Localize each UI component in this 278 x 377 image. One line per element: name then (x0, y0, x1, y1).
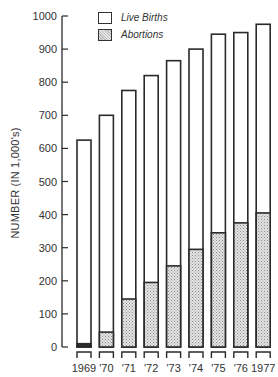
x-bracket (77, 352, 91, 358)
live-births-swatch-icon (98, 12, 112, 24)
y-tick-label: 300 (39, 242, 57, 254)
bar-live-births (99, 115, 113, 347)
x-axis: 1969'70'71'72'73'74'75'761977 (72, 352, 276, 374)
y-tick-label: 0 (51, 341, 57, 353)
bars (77, 24, 270, 347)
bar-chart: 01002003004005006007008009001000 1969'70… (0, 0, 278, 377)
x-bracket (167, 352, 181, 358)
x-tick-label: '76 (234, 362, 248, 374)
x-tick-label: '73 (166, 362, 180, 374)
x-tick-label: '70 (99, 362, 113, 374)
y-tick-label: 900 (39, 43, 57, 55)
legend: Live Births Abortions (98, 9, 168, 43)
bar-abortions (256, 213, 270, 347)
legend-label-live-births: Live Births (121, 12, 168, 23)
x-bracket (256, 352, 270, 358)
bar-abortions (189, 249, 203, 347)
y-tick-label: 400 (39, 209, 57, 221)
bar-abortions (167, 266, 181, 347)
x-tick-label: 1969 (72, 362, 96, 374)
bar-abortions (122, 299, 136, 347)
y-tick-label: 700 (39, 109, 57, 121)
abortions-swatch-icon (98, 29, 112, 41)
x-tick-label: '75 (211, 362, 225, 374)
bar-abortions (211, 233, 225, 347)
y-axis: 01002003004005006007008009001000 (33, 10, 68, 353)
y-tick-label: 200 (39, 275, 57, 287)
x-tick-label: '71 (122, 362, 136, 374)
bar-abortions (77, 344, 91, 347)
y-tick-label: 1000 (33, 10, 57, 22)
x-tick-label: 1977 (251, 362, 275, 374)
x-bracket (234, 352, 248, 358)
x-tick-label: '72 (144, 362, 158, 374)
x-bracket (189, 352, 203, 358)
x-bracket (99, 352, 113, 358)
bar-live-births (77, 140, 91, 347)
bar-abortions (144, 282, 158, 347)
x-tick-label: '74 (189, 362, 203, 374)
x-bracket (211, 352, 225, 358)
y-tick-label: 100 (39, 308, 57, 320)
x-bracket (144, 352, 158, 358)
y-tick-label: 600 (39, 142, 57, 154)
y-axis-label: NUMBER (IN 1,000's) (9, 103, 23, 263)
legend-label-abortions: Abortions (121, 29, 163, 40)
x-bracket (122, 352, 136, 358)
y-tick-label: 800 (39, 76, 57, 88)
legend-item-live-births: Live Births (98, 9, 168, 26)
y-tick-label: 500 (39, 176, 57, 188)
legend-item-abortions: Abortions (98, 26, 168, 43)
bar-abortions (234, 223, 248, 347)
bar-abortions (99, 332, 113, 347)
